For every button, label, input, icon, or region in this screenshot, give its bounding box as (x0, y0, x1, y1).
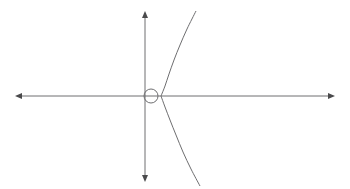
x-axis-arrow-right-icon (328, 93, 335, 99)
y-axis-arrow-down-icon (142, 175, 148, 182)
x-axis-arrow-left-icon (15, 93, 22, 99)
y-axis-arrow-up-icon (142, 11, 148, 18)
geometry-figure (0, 0, 350, 189)
diagram-canvas (0, 0, 350, 189)
curve-upper-branch (161, 11, 196, 96)
curve-lower-branch (161, 96, 200, 186)
